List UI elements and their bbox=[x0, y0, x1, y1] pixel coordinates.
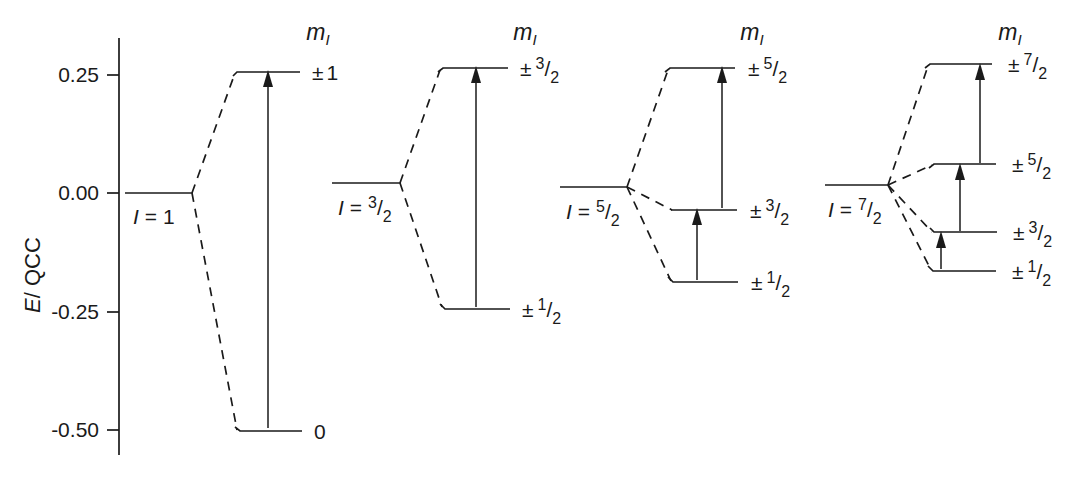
panel-1-level-label: ±1 bbox=[312, 61, 338, 84]
panel-spin-1: mI I=1 ±1 0 bbox=[125, 19, 338, 443]
panel-3-correlation-dash-middle bbox=[627, 187, 672, 210]
panel-3-spin-label: I=5/2 bbox=[566, 198, 620, 229]
panel-3-level-line bbox=[665, 68, 735, 72]
panel-3-level-line bbox=[668, 277, 738, 282]
panel-4-level-label: ±1/2 bbox=[1012, 258, 1051, 289]
y-tick-label: 0.00 bbox=[58, 181, 99, 204]
y-tick-label: -0.25 bbox=[51, 300, 99, 323]
panel-4-spin-label: I=7/2 bbox=[828, 196, 882, 227]
y-axis-title-units: / QCC bbox=[20, 237, 45, 298]
panel-4-level-label: ±3/2 bbox=[1013, 219, 1052, 250]
panel-4-transition-arrow-outer bbox=[975, 63, 985, 163]
panel-spin-3-2: mI I=3/2 ±3/2 ±1/2 bbox=[332, 19, 561, 327]
panel-4-level-line bbox=[929, 164, 996, 168]
panel-2-level-line bbox=[440, 304, 510, 309]
panel-4-level-line bbox=[925, 64, 992, 68]
panel-1-spin-label: I=1 bbox=[133, 205, 175, 228]
panel-1-mI-header: mI bbox=[306, 19, 329, 48]
panel-1-level-label: 0 bbox=[314, 420, 326, 443]
panel-spin-7-2: mI I=7/2 ±7/2 ±5/2 ±3/2 bbox=[825, 19, 1052, 289]
diagram-canvas: 0.25 0.00 -0.25 -0.50 E/ QCC mI I=1 bbox=[0, 0, 1084, 479]
panel-4-level-line bbox=[930, 228, 997, 232]
panel-1-correlation-dash-upper bbox=[192, 73, 235, 193]
panel-2-spin-label: I=3/2 bbox=[338, 194, 392, 225]
energy-level-diagram: 0.25 0.00 -0.25 -0.50 E/ QCC mI I=1 bbox=[0, 0, 1084, 479]
panel-3-correlation-dash-upper bbox=[627, 70, 668, 187]
panel-3-transition-arrow-central bbox=[692, 208, 702, 280]
panel-2-correlation-dash-lower bbox=[400, 183, 442, 307]
panel-2-level-label: ±1/2 bbox=[522, 296, 561, 327]
panel-2-level-line bbox=[438, 68, 508, 72]
panel-2-level-label: ±3/2 bbox=[520, 55, 559, 86]
y-axis: 0.25 0.00 -0.25 -0.50 E/ QCC bbox=[20, 38, 119, 455]
panel-3-level-label: ±3/2 bbox=[750, 197, 789, 228]
y-axis-title: E/ QCC bbox=[20, 237, 45, 313]
panel-3-transition-arrow-outer bbox=[717, 66, 727, 208]
panel-2-mI-header: mI bbox=[513, 19, 536, 48]
panel-4-correlation-dash-3 bbox=[888, 185, 932, 232]
panel-2-correlation-dash-upper bbox=[400, 70, 440, 183]
panel-1-correlation-dash-lower bbox=[192, 193, 237, 430]
panel-3-level-label: ±1/2 bbox=[751, 269, 790, 300]
panel-3-level-label: ±5/2 bbox=[748, 55, 787, 86]
panel-4-mI-header: mI bbox=[998, 19, 1021, 48]
panel-4-level-line bbox=[928, 266, 996, 271]
panel-4-correlation-dash-1 bbox=[888, 66, 928, 185]
panel-1-transition-arrow bbox=[263, 70, 273, 428]
y-axis-title-symbol: E bbox=[20, 298, 45, 313]
panel-2-transition-arrow bbox=[471, 66, 481, 307]
panel-4-transition-arrow-central bbox=[955, 163, 965, 231]
svg-text:E/ QCC: E/ QCC bbox=[20, 237, 45, 313]
panel-4-transition-arrow-inner bbox=[936, 231, 946, 269]
panel-4-level-label: ±5/2 bbox=[1012, 151, 1051, 182]
panel-3-mI-header: mI bbox=[740, 19, 763, 48]
panel-spin-5-2: mI I=5/2 ±5/2 ±3/2 ±1/2 bbox=[560, 19, 790, 300]
panel-3-correlation-dash-lower bbox=[627, 187, 671, 281]
y-tick-label: 0.25 bbox=[58, 63, 99, 86]
panel-4-level-label: ±7/2 bbox=[1008, 51, 1047, 82]
y-tick-label: -0.50 bbox=[51, 418, 99, 441]
panel-4-correlation-dash-4 bbox=[888, 185, 931, 270]
